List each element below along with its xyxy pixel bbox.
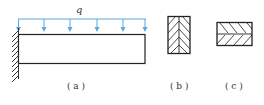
fixed-support-wall [12, 28, 19, 82]
load-arrows [16, 19, 148, 32]
distributed-load [16, 19, 148, 32]
panel-label-a: ( a ) [67, 81, 85, 91]
cross-section-c [217, 23, 252, 46]
panel-label-c: ( c ) [225, 81, 243, 91]
panel-label-b: ( b ) [170, 81, 189, 91]
cantilever-beam [19, 35, 146, 64]
load-label-q: q [76, 4, 82, 15]
cross-section-b [168, 17, 190, 54]
